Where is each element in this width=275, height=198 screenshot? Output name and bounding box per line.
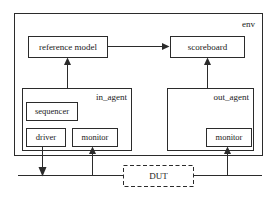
in-monitor-label: monitor (82, 132, 109, 142)
block-scoreboard[interactable]: scoreboard (171, 37, 245, 58)
arrowhead-up-refmodel (64, 58, 71, 66)
block-reference-model[interactable]: reference model (29, 37, 108, 58)
block-dut[interactable]: DUT (124, 166, 194, 187)
driver-label: driver (36, 132, 56, 142)
dut-label: DUT (149, 171, 168, 181)
block-sequencer[interactable]: sequencer (27, 103, 78, 121)
block-out-monitor[interactable]: monitor (207, 129, 252, 147)
sequencer-label: sequencer (35, 106, 69, 116)
connection-out-agent-to-scoreboard (204, 58, 211, 89)
block-in-monitor[interactable]: monitor (73, 129, 118, 147)
arrowhead-up-scoreboard (204, 58, 211, 66)
arrowhead-right-scoreboard (162, 43, 170, 50)
connection-refmodel-to-scoreboard (107, 43, 170, 50)
reference-model-label: reference model (39, 42, 98, 52)
connection-in-monitor-to-refmodel (64, 58, 71, 89)
uvm-testbench-diagram: env in_agent out_agent (0, 0, 275, 198)
in-agent-label: in_agent (96, 92, 127, 102)
block-driver[interactable]: driver (27, 129, 66, 147)
scoreboard-label: scoreboard (188, 42, 228, 52)
env-label: env (242, 19, 255, 29)
out-monitor-label: monitor (216, 132, 243, 142)
out-agent-label: out_agent (214, 92, 250, 102)
diagram-canvas: env in_agent out_agent (0, 0, 275, 198)
